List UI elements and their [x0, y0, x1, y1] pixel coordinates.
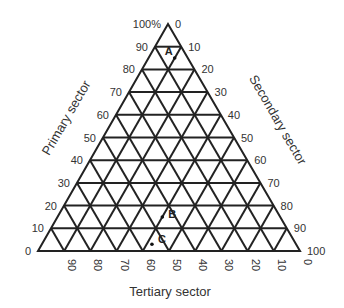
secondary-tick-label: 80: [281, 200, 293, 212]
primary-tick-label: 30: [58, 177, 70, 189]
tertiary-tick-label: 80: [92, 259, 104, 271]
secondary-tick-label: 90: [294, 222, 306, 234]
primary-tick-label: 10: [32, 222, 44, 234]
point-a-label: A: [165, 45, 173, 57]
tertiary-tick-label: 40: [197, 259, 209, 271]
secondary-tick-label: 30: [215, 86, 227, 98]
tertiary-tick-label: 60: [145, 259, 157, 271]
primary-tick-label: 80: [123, 63, 135, 75]
secondary-tick-label: 60: [254, 154, 266, 166]
tertiary-tick-label: 0: [302, 259, 314, 265]
point-a-marker: [173, 56, 177, 60]
grid-line-tertiary: [51, 228, 64, 251]
grid-line-secondary: [64, 47, 181, 251]
tertiary-tick-label: 50: [171, 259, 183, 271]
secondary-tick-label: 40: [228, 109, 240, 121]
ternary-diagram: 0102030405060708090100%01020304050607080…: [0, 0, 344, 308]
secondary-tick-label: 50: [241, 132, 253, 144]
secondary-tick-label: 0: [175, 18, 181, 30]
primary-tick-label: 60: [97, 109, 109, 121]
grid-line-secondary: [274, 228, 287, 251]
point-b-label: B: [168, 208, 176, 220]
grid-line-secondary: [169, 138, 234, 252]
primary-tick-label: 90: [136, 41, 148, 53]
primary-tick-label: 100%: [133, 18, 161, 30]
secondary-tick-label: 10: [188, 41, 200, 53]
secondary-tick-label: 20: [201, 63, 213, 75]
grid-line-tertiary: [129, 92, 221, 251]
point-c-marker: [150, 242, 154, 246]
grid-line-secondary: [117, 92, 208, 251]
point-c-label: C: [158, 233, 166, 245]
tertiary-tick-label: 70: [119, 259, 131, 271]
primary-tick-label: 40: [71, 154, 83, 166]
primary-axis-title: Primary sector: [39, 77, 94, 158]
tertiary-tick-label: 30: [223, 259, 235, 271]
point-b-marker: [161, 215, 165, 219]
primary-tick-label: 20: [45, 200, 57, 212]
tertiary-axis-title: Tertiary sector: [129, 284, 211, 299]
primary-tick-label: 70: [110, 86, 122, 98]
primary-tick-label: 50: [84, 132, 96, 144]
tertiary-tick-label: 10: [276, 259, 288, 271]
tertiary-tick-label: 90: [66, 259, 78, 271]
secondary-tick-label: 100: [307, 245, 325, 257]
primary-tick-label: 0: [25, 245, 31, 257]
secondary-tick-label: 70: [267, 177, 279, 189]
tertiary-tick-label: 20: [250, 259, 262, 271]
